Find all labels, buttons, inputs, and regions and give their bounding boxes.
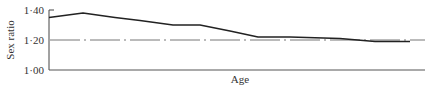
y-tick-label-1-20: 1·20	[24, 34, 45, 46]
y-tick-label-1-00: 1·00	[24, 64, 45, 76]
x-axis-title: Age	[231, 73, 249, 85]
y-axis-title: Sex ratio	[4, 20, 16, 60]
sex-ratio-chart: 1·40 1·20 1·00 Sex ratio Age	[0, 0, 435, 88]
y-tick-label-1-40: 1·40	[24, 4, 45, 16]
sex-ratio-line	[49, 13, 410, 42]
